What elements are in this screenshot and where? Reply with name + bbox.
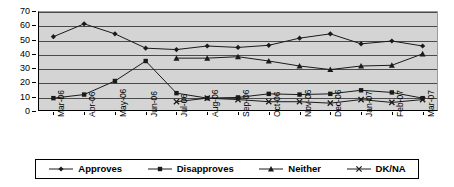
y-axis-tick-mark — [32, 25, 36, 26]
data-point-square — [359, 88, 363, 92]
x-axis-tick-label: Feb-07 — [396, 90, 405, 117]
x-axis-tick-label: Apr-06 — [88, 91, 97, 117]
x-axis: Mar-06Apr-06May-06Jun-06Jul-06Aug-06Sep-… — [38, 112, 439, 158]
x-axis-tick-label: Nov-06 — [304, 90, 313, 117]
chart-legend: ApprovesDisapprovesNeitherDK/NA — [35, 159, 419, 179]
data-point-diamond — [235, 45, 240, 50]
x-axis-tick-label: May-06 — [119, 89, 128, 117]
y-axis-tick-mark — [32, 82, 36, 83]
legend-item-approves[interactable]: Approves — [48, 164, 122, 174]
x-axis-tick-label: Aug-06 — [211, 90, 220, 117]
series-neither — [173, 51, 425, 72]
line-chart: 010203040506070 Mar-06Apr-06May-06Jun-06… — [0, 0, 454, 187]
data-point-diamond — [174, 47, 179, 52]
y-axis: 010203040506070 — [0, 0, 36, 122]
x-axis-tick-label: Jan-07 — [365, 91, 374, 117]
plot-wrapper — [38, 11, 438, 111]
y-axis-tick-label: 40 — [20, 50, 30, 59]
y-axis-tick-mark — [32, 54, 36, 55]
data-point-square — [328, 92, 332, 96]
y-axis-tick-label: 70 — [20, 7, 30, 16]
x-axis-tick-label: Jul-06 — [180, 94, 189, 117]
y-axis-tick-label: 10 — [20, 93, 30, 102]
x-axis-tick-mark — [238, 112, 239, 115]
series-layer — [38, 11, 438, 111]
y-axis-tick-label: 50 — [20, 36, 30, 45]
data-point-square — [174, 91, 178, 95]
data-point-diamond — [112, 31, 117, 36]
data-point-diamond — [328, 31, 333, 36]
x-axis-tick-mark — [423, 112, 424, 115]
y-axis-tick-mark — [32, 111, 36, 112]
data-point-square — [267, 92, 271, 96]
x-axis-tick-mark — [146, 112, 147, 115]
y-axis-tick-label: 20 — [20, 78, 30, 87]
data-point-square — [157, 167, 161, 171]
x-axis-tick-mark — [269, 112, 270, 115]
x-axis-tick-label: Mar-06 — [57, 90, 66, 117]
data-point-diamond — [82, 21, 87, 26]
data-point-diamond — [51, 34, 56, 39]
x-axis-tick-label: Dec-06 — [334, 90, 343, 117]
x-axis-tick-mark — [84, 112, 85, 115]
legend-item-neither[interactable]: Neither — [258, 164, 321, 174]
legend-marker-triangle-icon — [258, 164, 284, 174]
legend-marker-x-icon — [346, 164, 372, 174]
legend-label: Approves — [78, 164, 122, 174]
data-point-diamond — [358, 41, 363, 46]
x-axis-tick-mark — [53, 112, 54, 115]
legend-marker-square-icon — [147, 164, 173, 174]
y-axis-tick-label: 30 — [20, 64, 30, 73]
legend-label: Disapproves — [177, 164, 234, 174]
x-axis-tick-mark — [176, 112, 177, 115]
y-axis-tick-label: 60 — [20, 21, 30, 30]
x-axis-tick-label: Jun-06 — [150, 91, 159, 117]
y-axis-tick-label: 0 — [25, 107, 30, 116]
data-point-diamond — [389, 38, 394, 43]
x-axis-tick-label: Mar-07 — [427, 90, 436, 117]
legend-item-dk-na[interactable]: DK/NA — [346, 164, 406, 174]
x-axis-tick-mark — [207, 112, 208, 115]
data-point-square — [82, 92, 86, 96]
data-point-square — [51, 96, 55, 100]
x-axis-tick-mark — [115, 112, 116, 115]
legend-item-disapproves[interactable]: Disapproves — [147, 164, 234, 174]
data-point-diamond — [297, 36, 302, 41]
data-point-diamond — [420, 43, 425, 48]
y-axis-tick-mark — [32, 97, 36, 98]
data-point-square — [113, 79, 117, 83]
y-axis-tick-mark — [32, 40, 36, 41]
data-point-diamond — [205, 43, 210, 48]
y-axis-tick-mark — [32, 11, 36, 12]
data-point-square — [143, 59, 147, 63]
data-point-diamond — [59, 166, 64, 171]
data-point-square — [390, 90, 394, 94]
legend-label: DK/NA — [376, 164, 406, 174]
series-approves — [51, 21, 425, 52]
legend-label: Neither — [288, 164, 321, 174]
x-axis-tick-mark — [330, 112, 331, 115]
x-axis-tick-mark — [361, 112, 362, 115]
data-point-diamond — [143, 46, 148, 51]
data-point-diamond — [266, 43, 271, 48]
data-point-square — [297, 92, 301, 96]
x-axis-tick-label: Oct-06 — [273, 91, 282, 117]
data-point-triangle — [420, 51, 426, 57]
x-axis-tick-label: Sep-06 — [242, 90, 251, 117]
y-axis-tick-mark — [32, 68, 36, 69]
x-axis-tick-mark — [300, 112, 301, 115]
x-axis-tick-mark — [392, 112, 393, 115]
legend-marker-diamond-icon — [48, 164, 74, 174]
